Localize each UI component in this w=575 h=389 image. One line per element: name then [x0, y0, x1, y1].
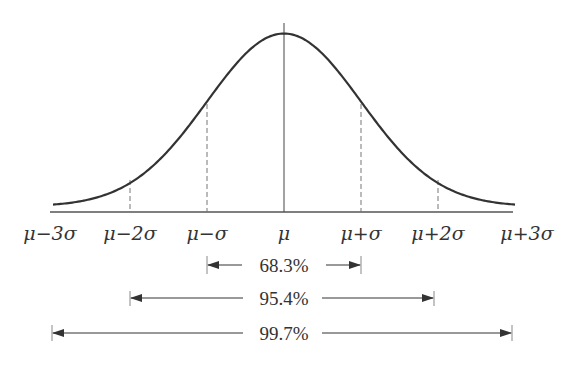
label-minus-1sigma: μ−σ [186, 222, 228, 244]
interval-68-label: 68.3% [259, 255, 308, 276]
label-minus-3sigma: μ−3σ [23, 222, 77, 244]
label-mu: μ [278, 222, 290, 244]
label-minus-2sigma: μ−2σ [103, 222, 157, 244]
label-plus-1sigma: μ+σ [340, 222, 382, 244]
interval-95-label: 95.4% [259, 288, 308, 309]
axis-labels: μ−3σ μ−2σ μ−σ μ μ+σ μ+2σ μ+3σ [23, 222, 554, 244]
label-plus-2sigma: μ+2σ [411, 222, 465, 244]
normal-distribution-diagram: μ−3σ μ−2σ μ−σ μ μ+σ μ+2σ μ+3σ 68.3% 95.4… [0, 0, 575, 389]
label-plus-3sigma: μ+3σ [500, 222, 554, 244]
interval-997-label: 99.7% [259, 323, 308, 344]
